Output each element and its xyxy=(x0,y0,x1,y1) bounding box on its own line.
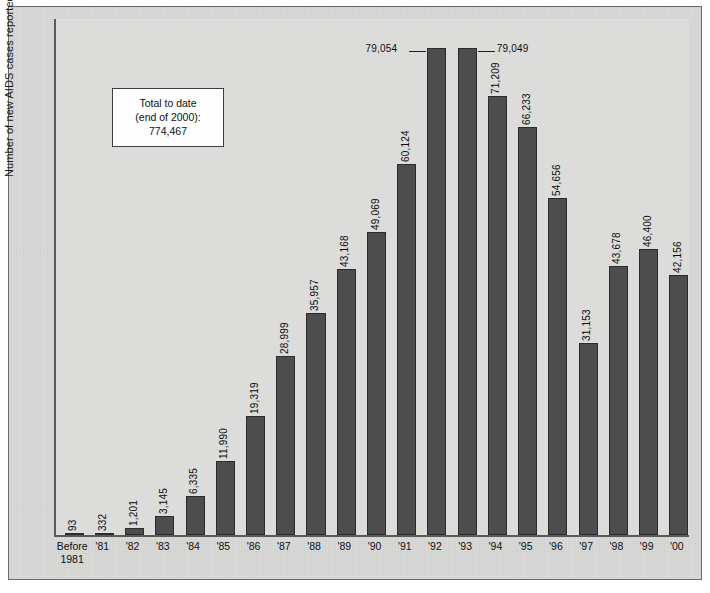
x-tick-line1: '95 xyxy=(519,540,533,552)
x-tick-label: '00 xyxy=(656,540,698,553)
x-tick-line1: '88 xyxy=(307,540,321,552)
total-to-date-callout: Total to date (end of 2000): 774,467 xyxy=(112,88,224,147)
bar-value-label: 43,678 xyxy=(611,232,622,264)
y-axis-label: Number of new AIDS cases reported xyxy=(3,0,15,177)
bar-value-label: 11,990 xyxy=(218,428,229,459)
x-tick-line1: '89 xyxy=(337,540,351,552)
bar-value-label: 71,209 xyxy=(490,62,501,94)
x-axis-tick-labels: Before1981'81'82'83'84'85'86'87'88'89'90… xyxy=(54,540,689,580)
bar-87 xyxy=(276,17,295,535)
bar-rect xyxy=(669,275,688,535)
bar-value-label: 43,168 xyxy=(339,235,350,267)
x-tick-line1: '84 xyxy=(186,540,200,552)
bar-rect xyxy=(246,416,265,535)
x-tick-line1: '85 xyxy=(216,540,230,552)
bar-rect xyxy=(155,516,174,535)
bar-value-label: 79,054 xyxy=(365,43,397,54)
bar-92 xyxy=(427,17,446,535)
bar-value-label: 28,999 xyxy=(279,322,290,354)
screenshot-root: Number of new AIDS cases reported 933321… xyxy=(0,0,710,593)
x-tick-line1: '96 xyxy=(549,540,563,552)
bar-rect xyxy=(125,528,144,535)
x-tick-line1: '92 xyxy=(428,540,442,552)
x-tick-line2: 1981 xyxy=(51,553,93,566)
bar-value-label: 66,233 xyxy=(521,93,532,125)
bar-value-label: 54,656 xyxy=(551,164,562,196)
bar-rect xyxy=(367,232,386,535)
bar-00 xyxy=(669,17,688,535)
x-tick-line1: '87 xyxy=(277,540,291,552)
bar-rect xyxy=(548,198,567,535)
bar-value-label: 332 xyxy=(97,514,108,531)
x-tick-line1: '99 xyxy=(640,540,654,552)
bar-94 xyxy=(488,17,507,535)
x-tick-line1: '90 xyxy=(368,540,382,552)
x-tick-line1: '97 xyxy=(579,540,593,552)
callout-line-2: (end of 2000): xyxy=(117,110,219,124)
x-tick-line1: '82 xyxy=(126,540,140,552)
callout-line-1: Total to date xyxy=(117,96,219,110)
bar-value-label: 60,124 xyxy=(400,130,411,162)
bar-rect xyxy=(639,249,658,535)
bar-rect xyxy=(427,48,446,535)
bar-rect xyxy=(306,313,325,535)
bar-value-label: 6,335 xyxy=(188,468,199,494)
x-tick-line1: '83 xyxy=(156,540,170,552)
bar-rect xyxy=(579,343,598,535)
bar-rect xyxy=(518,127,537,535)
bar-rect xyxy=(337,269,356,535)
chart-figure-frame: Number of new AIDS cases reported 933321… xyxy=(8,6,702,580)
x-tick-line1: '81 xyxy=(96,540,110,552)
bar-91 xyxy=(397,17,416,535)
bar-value-label: 93 xyxy=(67,519,78,531)
bar-88 xyxy=(306,17,325,535)
bar-89 xyxy=(337,17,356,535)
bar-rect xyxy=(216,461,235,535)
bar-value-label: 49,069 xyxy=(370,199,381,231)
bar-value-label: 46,400 xyxy=(642,215,653,247)
x-tick-line1: '98 xyxy=(610,540,624,552)
value-leader-line xyxy=(409,51,426,52)
bar-rect xyxy=(458,48,477,535)
bar-value-label: 35,957 xyxy=(309,279,320,311)
bar-rect xyxy=(276,356,295,535)
x-tick-line1: '91 xyxy=(398,540,412,552)
bar-rect xyxy=(397,164,416,535)
x-tick-line1: '00 xyxy=(670,540,684,552)
bar-value-label: 1,201 xyxy=(128,500,139,526)
bar-96 xyxy=(548,17,567,535)
x-tick-line1: '94 xyxy=(489,540,503,552)
bar-value-label: 42,156 xyxy=(672,241,683,273)
bar-before1981 xyxy=(65,17,84,535)
bar-98 xyxy=(609,17,628,535)
bar-93 xyxy=(458,17,477,535)
bar-rect xyxy=(609,266,628,535)
bar-rect xyxy=(488,96,507,535)
x-tick-line1: '93 xyxy=(458,540,472,552)
bar-97 xyxy=(579,17,598,535)
bar-rect xyxy=(95,533,114,535)
bar-value-label: 19,319 xyxy=(249,382,260,414)
x-tick-line1: '86 xyxy=(247,540,261,552)
bar-rect xyxy=(65,533,84,535)
bar-value-label: 3,145 xyxy=(158,488,169,514)
bar-99 xyxy=(639,17,658,535)
callout-line-3: 774,467 xyxy=(117,124,219,138)
bar-value-label: 31,153 xyxy=(581,309,592,341)
bar-rect xyxy=(186,496,205,535)
bar-90 xyxy=(367,17,386,535)
bar-86 xyxy=(246,17,265,535)
